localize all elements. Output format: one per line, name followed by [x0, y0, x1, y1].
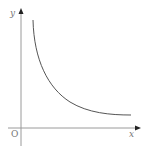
x-axis-label: x	[129, 129, 134, 139]
y-axis-arrow-icon	[19, 8, 24, 14]
chart-canvas	[0, 0, 149, 153]
y-axis-label: y	[10, 8, 15, 18]
curve	[33, 20, 131, 115]
x-axis-arrow-icon	[135, 126, 141, 131]
origin-label: O	[11, 129, 18, 139]
